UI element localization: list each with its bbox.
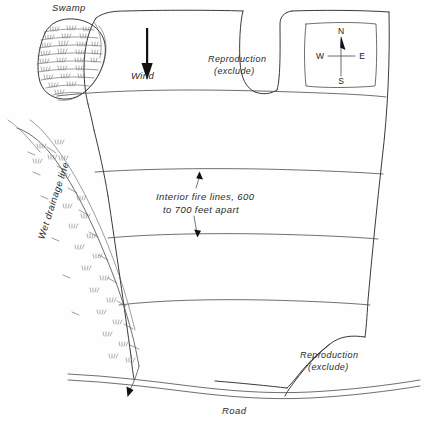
interior-fire-lines-label-line1: Interior fire lines, 600 [156, 191, 255, 202]
drainage-flow-arrow-icon [127, 387, 134, 398]
wet-drainage-line [8, 120, 139, 397]
wind-label: Wind [131, 70, 154, 81]
road-label: Road [222, 405, 247, 416]
swamp-grass-tufts [40, 26, 98, 94]
swamp-label: Swamp [52, 2, 86, 13]
reproduction-top-label-line1: Reproduction [208, 54, 266, 64]
reproduction-bottom-label-line2: (exclude) [308, 362, 349, 372]
road [68, 374, 420, 399]
map-drawing-canvas: Swamp Wind Reproduction (exclude) N S E … [0, 0, 426, 425]
compass-south-label: S [338, 76, 344, 86]
reproduction-top-label-line2: (exclude) [214, 66, 255, 76]
compass-west-label: W [316, 51, 324, 61]
interior-fire-lines-label-line2: to 700 feet apart [163, 204, 239, 215]
compass-rose: N S E W [305, 23, 377, 88]
compass-north-label: N [338, 26, 344, 36]
prescribed-burn-unit-map: Swamp Wind Reproduction (exclude) N S E … [0, 0, 426, 425]
reproduction-bottom-label-line1: Reproduction [300, 350, 358, 360]
compass-east-label: E [359, 51, 365, 61]
wet-drainage-line-label: Wet drainage line [35, 161, 70, 241]
drainage-marsh-tufts [33, 140, 135, 362]
